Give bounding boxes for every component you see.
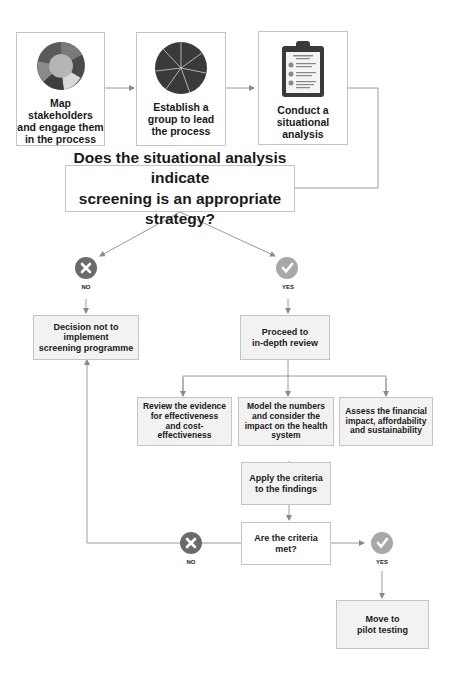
question-situational: Does the situational analysis indicate s… [65, 165, 295, 212]
criteria-question: Are the criteria met? [241, 522, 331, 565]
no-label-2: NO [176, 559, 206, 565]
step-label: Map stakeholders and engage them in the … [17, 97, 104, 145]
yes-label: YES [273, 284, 303, 290]
box-text: Apply the criteria to the findings [249, 473, 323, 494]
box-text: Review the evidence for effectiveness an… [143, 402, 226, 441]
yes-badge [276, 257, 298, 279]
check-icon [281, 262, 294, 274]
clipboard-checklist-icon [281, 40, 325, 98]
no-badge-2 [180, 532, 202, 554]
review-evidence: Review the evidence for effectiveness an… [137, 397, 232, 446]
no-label: NO [71, 284, 101, 290]
puzzle-ring-icon [34, 41, 88, 91]
proceed-review: Proceed to in-depth review [240, 315, 330, 360]
question-text: Does the situational analysis indicate s… [66, 148, 294, 229]
box-text: Decision not to implement screening prog… [39, 322, 134, 353]
box-text: Proceed to in-depth review [252, 327, 318, 348]
step-map-stakeholders: Map stakeholders and engage them in the … [16, 32, 105, 146]
assess-financial: Assess the financial impact, affordabili… [339, 397, 433, 446]
box-text: Move to pilot testing [357, 614, 408, 635]
box-text: Are the criteria met? [254, 533, 318, 554]
x-icon [80, 262, 92, 274]
yes-badge-2 [371, 532, 393, 554]
decision-not-implement: Decision not to implement screening prog… [33, 315, 139, 360]
no-badge [75, 257, 97, 279]
check-icon [376, 537, 389, 549]
box-text: Assess the financial impact, affordabili… [345, 407, 427, 436]
model-numbers: Model the numbers and consider the impac… [238, 397, 334, 446]
x-icon [185, 537, 197, 549]
step-establish-group: Establish a group to lead the process [136, 32, 226, 146]
puzzle-circle-icon [154, 41, 208, 95]
yes-label-2: YES [367, 559, 397, 565]
apply-criteria: Apply the criteria to the findings [241, 462, 331, 505]
step-label: Establish a group to lead the process [148, 101, 215, 137]
step-label: Conduct a situational analysis [277, 104, 330, 140]
box-text: Model the numbers and consider the impac… [245, 402, 328, 441]
pilot-testing: Move to pilot testing [336, 600, 429, 649]
step-situational-analysis: Conduct a situational analysis [258, 31, 348, 145]
